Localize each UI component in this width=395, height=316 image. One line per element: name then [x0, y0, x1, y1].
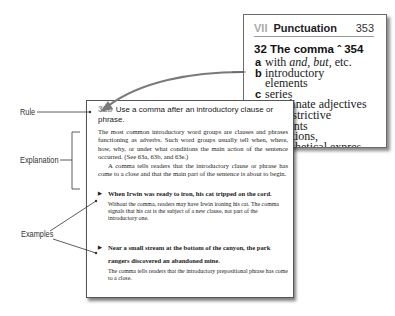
explanation-label: Explanation — [20, 155, 59, 165]
curved-arrow-icon — [108, 72, 243, 106]
rule-label: Rule — [20, 107, 35, 117]
callout-lines — [0, 0, 395, 316]
examples-label: Examples — [21, 229, 53, 239]
